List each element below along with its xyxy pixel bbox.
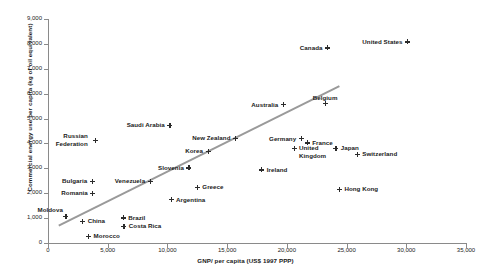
scatter-point[interactable] (121, 224, 126, 229)
scatter-point[interactable] (299, 136, 304, 141)
scatter-point[interactable] (121, 215, 126, 220)
point-label: Belgium (285, 94, 365, 102)
chart-figure: Commercial energy use per capita (kg of … (0, 0, 491, 277)
point-label: Moldova (37, 206, 62, 214)
y-tick-mark (44, 218, 49, 219)
scatter-point[interactable] (90, 179, 95, 184)
y-tick-label: 5,000 (0, 115, 42, 121)
point-label: Romania (61, 189, 87, 197)
scatter-point[interactable] (93, 138, 98, 143)
x-axis-line (48, 243, 467, 244)
scatter-point[interactable] (355, 152, 360, 157)
y-tick-label: 9,000 (0, 15, 42, 21)
scatter-point[interactable] (305, 140, 310, 145)
scatter-point[interactable] (186, 165, 191, 170)
y-tick-mark (44, 168, 49, 169)
y-tick-mark (44, 94, 49, 95)
y-tick-label: 3,000 (0, 164, 42, 170)
y-tick-label: 0 (0, 239, 42, 245)
point-label: France (312, 139, 333, 147)
y-tick-mark (44, 143, 49, 144)
scatter-point[interactable] (195, 185, 200, 190)
x-tick-label: 15,000 (207, 247, 247, 253)
point-label: Hong Kong (344, 185, 378, 193)
scatter-point[interactable] (323, 101, 328, 106)
point-label: RussianFederation (56, 132, 88, 147)
y-tick-label: 1,000 (0, 214, 42, 220)
y-tick-label: 6,000 (0, 90, 42, 96)
point-label: Switzerland (362, 150, 397, 158)
scatter-point[interactable] (281, 102, 286, 107)
scatter-point[interactable] (63, 214, 68, 219)
x-axis-title: GNP/ per capita (US$ 1997 PPP) (0, 257, 491, 264)
scatter-point[interactable] (333, 146, 338, 151)
point-label: Costa Rica (129, 222, 161, 230)
y-tick-label: 8,000 (0, 40, 42, 46)
figure-footnote (60, 271, 480, 277)
point-label: Morocco (94, 232, 120, 240)
y-tick-label: 2,000 (0, 189, 42, 195)
scatter-point[interactable] (206, 149, 211, 154)
point-label: Bulgaria (62, 177, 87, 185)
x-tick-label: 25,000 (327, 247, 367, 253)
x-tick-label: 0 (28, 247, 68, 253)
scatter-point[interactable] (259, 167, 264, 172)
x-tick-label: 5,000 (88, 247, 128, 253)
y-tick-mark (44, 119, 49, 120)
point-label: Ireland (267, 166, 288, 174)
scatter-point[interactable] (337, 187, 342, 192)
y-tick-label: 4,000 (0, 139, 42, 145)
x-tick-label: 35,000 (446, 247, 486, 253)
point-label: Canada (300, 44, 323, 52)
scatter-point[interactable] (80, 219, 85, 224)
y-tick-label: 7,000 (0, 65, 42, 71)
point-label: Germany (269, 135, 296, 143)
point-label: Australia (251, 101, 278, 109)
scatter-point[interactable] (167, 123, 172, 128)
x-tick-label: 10,000 (147, 247, 187, 253)
x-tick-label: 30,000 (386, 247, 426, 253)
y-tick-mark (44, 69, 49, 70)
y-tick-mark (44, 44, 49, 45)
point-label: New Zealand (192, 134, 230, 142)
point-label: Venezuela (115, 177, 145, 185)
scatter-point[interactable] (325, 45, 330, 50)
point-label: Korea (185, 147, 203, 155)
x-tick-label: 20,000 (267, 247, 307, 253)
point-label: Greece (202, 183, 223, 191)
point-label: China (88, 217, 105, 225)
y-tick-mark (44, 19, 49, 20)
point-label: Brazil (128, 214, 145, 222)
point-label: Argentina (176, 196, 205, 204)
scatter-point[interactable] (90, 191, 95, 196)
scatter-point[interactable] (292, 146, 297, 151)
scatter-point[interactable] (86, 234, 91, 239)
scatter-point[interactable] (148, 179, 153, 184)
y-tick-mark (44, 193, 49, 194)
point-label: Japan (341, 144, 359, 152)
point-label: Slovenia (158, 164, 184, 172)
scatter-point[interactable] (405, 39, 410, 44)
scatter-point[interactable] (169, 197, 174, 202)
point-label: Saudi Arabia (127, 121, 165, 129)
point-label: United States (362, 38, 402, 46)
scatter-point[interactable] (233, 136, 238, 141)
